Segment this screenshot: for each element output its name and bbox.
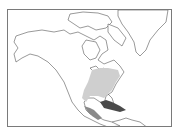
north-america-map: [8, 10, 172, 127]
map-frame: [7, 9, 172, 127]
baffin-island: [108, 24, 126, 46]
greenland: [118, 10, 168, 56]
arctic-islands: [68, 12, 112, 30]
